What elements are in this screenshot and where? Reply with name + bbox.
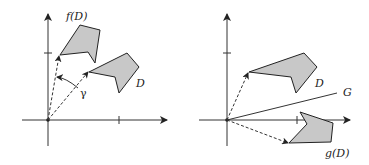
right-vector-to-d: [227, 73, 248, 120]
left-image-fd: [60, 25, 100, 63]
label-f-of-d: f(D): [65, 10, 87, 23]
label-gamma: γ: [80, 87, 87, 100]
right-image-gd: [289, 112, 333, 143]
left-vector-to-fd: [48, 56, 59, 120]
right-vector-to-gd: [227, 120, 288, 143]
label-d-left: D: [135, 77, 145, 90]
left-panel: f(D) D γ: [22, 10, 167, 146]
label-g-of-d: g(D): [325, 147, 349, 160]
left-domain-d: [89, 53, 139, 93]
label-d-right: D: [314, 77, 324, 90]
diagram-canvas: f(D) D γ D G g(D): [0, 0, 369, 165]
right-panel: D G g(D): [199, 14, 352, 160]
right-domain-d: [249, 53, 317, 93]
label-g-line: G: [343, 86, 352, 99]
line-g: [227, 93, 337, 120]
rotation-arc: [57, 77, 78, 88]
